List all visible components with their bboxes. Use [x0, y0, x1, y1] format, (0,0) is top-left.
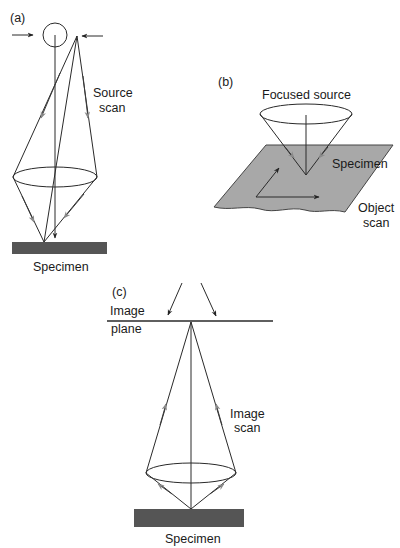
gray-arrow-icon: [22, 196, 34, 222]
scanning-optics-diagram: (a) Source scan Specimen (b) Focused sou…: [0, 0, 400, 548]
image-plane-label: plane: [111, 322, 142, 336]
specimen-block: [134, 509, 244, 527]
panel-c: (c) Image plane Image scan Specimen: [107, 283, 273, 546]
panel-a: (a) Source scan Specimen: [10, 11, 133, 274]
object-scan-label: scan: [363, 216, 389, 230]
gray-arrow-icon: [160, 404, 166, 425]
gray-arrow-icon: [210, 484, 224, 494]
ray-line: [13, 36, 77, 177]
object-scan-label: Object: [358, 201, 395, 215]
specimen-block: [12, 242, 107, 254]
panel-a-label: (a): [10, 11, 25, 25]
source-scan-label: scan: [99, 101, 125, 115]
ray-line: [146, 322, 191, 473]
image-scan-label: Image: [230, 407, 265, 421]
source-scan-label: Source: [93, 86, 133, 100]
gray-arrow-icon: [83, 76, 88, 118]
incoming-arrow-icon: [168, 283, 182, 315]
gray-arrow-icon: [64, 194, 84, 218]
image-scan-label: scan: [234, 421, 260, 435]
gray-arrow-icon: [216, 404, 222, 425]
specimen-label: Specimen: [33, 260, 89, 274]
image-plane-label: Image: [110, 304, 145, 318]
gray-arrow-icon: [41, 73, 60, 118]
gray-arrow-icon: [158, 484, 172, 494]
incoming-arrow-icon: [201, 283, 216, 316]
specimen-plane-label: Specimen: [332, 157, 388, 171]
specimen-label: Specimen: [165, 532, 221, 546]
focused-source-label: Focused source: [262, 88, 351, 102]
panel-b: (b) Focused source Specimen Object scan: [214, 75, 395, 230]
chief-ray-line: [44, 36, 77, 242]
ray-line: [191, 322, 236, 473]
panel-c-label: (c): [112, 285, 127, 299]
panel-b-label: (b): [218, 75, 233, 89]
